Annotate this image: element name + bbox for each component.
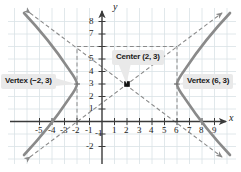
x-tick-label-8: 8 [199, 126, 204, 135]
vertex-left-label: Vertex (−2, 3) [1, 74, 56, 89]
vertex-right-label: Vertex (6, 3) [183, 74, 233, 89]
x-axis-label: x [229, 112, 233, 123]
leader-vertex-left [55, 78, 76, 86]
x-tick-label--2: -2 [72, 126, 80, 135]
y-tick-label-1: 1 [89, 104, 94, 113]
x-tick-label--5: -5 [35, 126, 43, 135]
y-tick-label-7: 7 [89, 29, 94, 38]
y-tick-label-5: 5 [89, 54, 94, 63]
y-axis-label: y [113, 1, 117, 12]
y-tick-label-2: 2 [89, 92, 94, 101]
x-tick-label--1: -1 [85, 126, 93, 135]
x-tick-label--3: -3 [60, 126, 68, 135]
y-tick-label-8: 8 [89, 17, 94, 26]
y-tick-label--2: -2 [86, 142, 94, 151]
y-tick-label--1: -1 [95, 129, 103, 138]
x-tick-label-7: 7 [187, 126, 192, 135]
x-tick-label-9: 9 [212, 126, 217, 135]
x-tick-label--4: -4 [48, 126, 56, 135]
x-tick-label-4: 4 [149, 126, 154, 135]
x-tick-label-5: 5 [162, 126, 167, 135]
x-tick-label-1: 1 [112, 126, 117, 135]
x-tick-label-3: 3 [137, 126, 142, 135]
hyperbola-figure: -5 -4 -3 -2 -1 1 2 3 4 5 6 7 8 9 8 7 5 4… [0, 0, 241, 172]
y-tick-label-3: 3 [89, 79, 94, 88]
center-point-marker [124, 81, 130, 87]
y-tick-label-4: 4 [89, 67, 94, 76]
x-tick-label-2: 2 [124, 126, 129, 135]
center-label: Center (2, 3) [112, 50, 164, 65]
x-tick-label-6: 6 [174, 126, 179, 135]
